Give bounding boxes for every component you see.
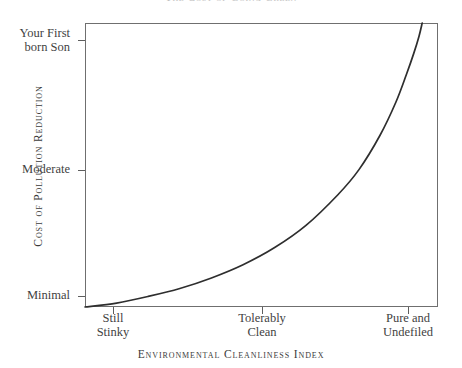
x-tick-label-tolerably-clean: Tolerably Clean — [202, 311, 322, 339]
y-tick-mark-minimal — [78, 296, 85, 297]
y-tick-mark-moderate — [78, 170, 85, 171]
cost-curve-path — [85, 23, 422, 307]
x-tick-label-still-stinky: Still Stinky — [53, 311, 173, 339]
y-tick-label-moderate: Moderate — [22, 163, 70, 177]
cost-curve — [85, 23, 438, 307]
chart-title-remnant: The Cost of Going Green — [0, 0, 462, 3]
x-axis-title: Environmental Cleanliness Index — [0, 348, 462, 360]
y-tick-label-minimal: Minimal — [27, 289, 70, 303]
y-axis-title: Cost of Pollution Reduction — [32, 51, 44, 281]
x-tick-label-pure-undefiled: Pure and Undefiled — [348, 311, 462, 339]
chart-figure: The Cost of Going Green Your First born … — [0, 0, 462, 368]
y-tick-mark-firstborn — [78, 40, 85, 41]
y-tick-label-firstborn: Your First born Son — [20, 27, 71, 54]
